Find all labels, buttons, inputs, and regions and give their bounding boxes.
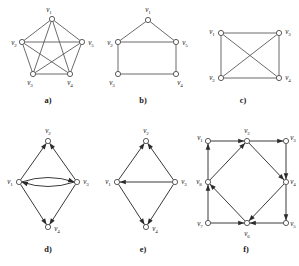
vertex-label-a-v3: v3 (27, 79, 33, 88)
edge-f-v1-v2-arrowhead (238, 139, 244, 144)
vertex-label-e-v2: v2 (143, 127, 149, 136)
vertex-f-v8 (205, 179, 210, 184)
vertex-a-v4 (67, 71, 72, 76)
vertex-c-v2 (218, 75, 223, 80)
vertex-d-v3 (74, 179, 79, 184)
vertex-f-v2 (244, 138, 249, 143)
panel-caption-c: c) (240, 96, 247, 105)
vertex-d-v4 (45, 224, 50, 229)
vertex-label-e-v3: v3 (181, 178, 187, 187)
edge-e-v3-v4-arrowhead (147, 218, 152, 224)
vertex-e-v3 (172, 179, 177, 184)
vertex-f-v5 (283, 220, 288, 225)
vertex-label-c-v2: v2 (209, 74, 215, 83)
vertex-b-v2 (115, 39, 120, 44)
panel-caption-b: b) (139, 96, 147, 105)
edge-d-v1-v4-arrowhead (41, 218, 46, 224)
figure-plate: v1v2v5v3v4v1v2v5v3v4v1v3v2v4v2v1v3v4v2v1… (0, 0, 299, 266)
vertex-label-f-v8: v8 (196, 178, 202, 187)
vertex-e-v4 (143, 224, 148, 229)
vertex-b-v4 (173, 71, 178, 76)
vertex-e-v1 (114, 179, 119, 184)
edge-d-v1-v2 (21, 143, 47, 180)
panel-captions-layer: a)b)c)d)e)f) (44, 96, 249, 254)
vertex-c-v4 (276, 75, 281, 80)
edge-f-v4-v5-arrowhead (284, 214, 289, 220)
vertex-label-b-v1: v1 (145, 6, 151, 15)
vertex-labels-layer: v1v2v5v3v4v1v2v5v3v4v1v3v2v4v2v1v3v4v2v1… (7, 6, 296, 239)
edge-f-v7-v8-arrowhead (206, 185, 211, 191)
edge-d-v3-v4 (49, 184, 75, 225)
edge-e-v3-v1-arrowhead (120, 180, 126, 185)
vertex-b-v3 (115, 71, 120, 76)
vertex-b-v1 (145, 17, 150, 22)
vertex-label-a-v2: v2 (11, 39, 17, 48)
edge-e-v1-v2 (119, 143, 145, 180)
edge-d-v3-v1 (22, 182, 75, 187)
edge-d-v1-v3 (22, 178, 75, 183)
vertex-e-v2 (143, 138, 148, 143)
vertex-d-v2 (45, 138, 50, 143)
vertex-label-d-v3: v3 (83, 178, 89, 187)
edge-f-v3-v4-arrowhead (284, 173, 289, 179)
edge-f-v7-v6-arrowhead (238, 221, 244, 226)
vertex-d-v1 (16, 179, 21, 184)
vertex-f-v3 (283, 138, 288, 143)
edges-layer (20, 21, 286, 225)
vertex-label-b-v3: v3 (109, 79, 115, 88)
vertex-a-v3 (30, 71, 35, 76)
edge-e-v1-v2-arrowhead (139, 143, 144, 149)
vertex-label-f-v5: v5 (290, 220, 296, 229)
vertex-f-v6 (244, 220, 249, 225)
vertex-b-v5 (173, 39, 178, 44)
edge-e-v3-v2 (148, 143, 174, 180)
edge-f-v8-v2 (210, 143, 245, 180)
vertex-label-a-v1: v1 (46, 6, 52, 15)
edge-b-v1-v5 (150, 22, 174, 41)
vertex-label-d-v2: v2 (45, 127, 51, 136)
vertex-label-f-v3: v3 (290, 134, 296, 143)
panel-caption-a: a) (45, 96, 52, 105)
vertex-label-a-v4: v4 (67, 79, 73, 88)
vertex-label-b-v4: v4 (177, 79, 183, 88)
vertex-label-f-v2: v2 (244, 127, 250, 136)
edge-e-v1-v4 (118, 184, 144, 225)
vertex-label-f-v1: v1 (197, 134, 203, 143)
edge-d-v3-v1-arrowhead (22, 182, 29, 186)
vertex-label-e-v1: v1 (105, 178, 111, 187)
vertex-label-c-v4: v4 (285, 74, 291, 83)
vertex-label-c-v3: v3 (285, 28, 291, 37)
edge-f-v6-v8 (210, 184, 245, 221)
edge-b-v1-v2 (120, 22, 146, 41)
vertex-f-v1 (205, 138, 210, 143)
vertex-label-f-v4: v4 (290, 178, 296, 187)
vertex-label-f-v7: v7 (197, 220, 203, 229)
edge-e-v3-v2-arrowhead (148, 143, 153, 149)
vertex-a-v2 (19, 39, 24, 44)
nodes-layer (16, 16, 288, 229)
panel-caption-f: f) (243, 245, 249, 254)
edge-d-v1-v2-arrowhead (41, 143, 46, 149)
edge-f-v2-v4 (249, 143, 284, 180)
vertex-a-v5 (79, 39, 84, 44)
panel-caption-d: d) (44, 245, 52, 254)
vertex-label-d-v1: v1 (7, 178, 13, 187)
edge-d-v1-v3-arrowhead (68, 178, 75, 182)
edge-f-v8-v1-arrowhead (206, 144, 211, 150)
edge-e-v3-v4 (147, 184, 173, 225)
panel-caption-e: e) (140, 245, 147, 254)
edge-f-v4-v6 (249, 184, 284, 221)
vertex-label-b-v5: v5 (182, 39, 188, 48)
graphs-svg: v1v2v5v3v4v1v2v5v3v4v1v3v2v4v2v1v3v4v2v1… (0, 0, 299, 266)
vertex-label-d-v4: v4 (54, 225, 60, 234)
edge-f-v5-v6-arrowhead (250, 221, 256, 226)
edge-d-v1-v4 (20, 184, 46, 225)
vertex-label-b-v2: v2 (107, 39, 113, 48)
vertex-label-f-v6: v6 (244, 230, 250, 239)
edge-a-v2-v3 (23, 44, 32, 71)
edge-f-v2-v3-arrowhead (277, 139, 283, 144)
vertex-f-v7 (205, 220, 210, 225)
vertex-label-e-v4: v4 (152, 225, 158, 234)
vertex-label-a-v5: v5 (88, 39, 94, 48)
vertex-a-v1 (49, 16, 54, 21)
